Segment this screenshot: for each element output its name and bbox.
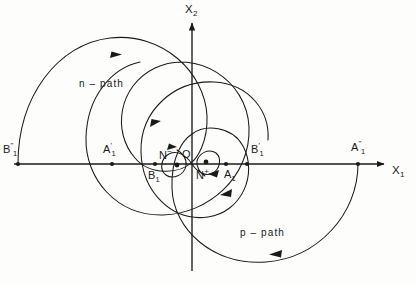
n-path-arrow-mid xyxy=(150,119,161,127)
point-a1-dot xyxy=(224,162,228,166)
x2-axis-label: X2 xyxy=(185,4,198,18)
label-b1-double-prime: B"1 xyxy=(3,142,17,157)
label-origin: O xyxy=(182,149,191,160)
p-path-arrow-inner xyxy=(208,170,219,178)
point-a1-prime-dot xyxy=(110,162,114,166)
figure-container: X1 X2 B"1 A'1 B1 N− O N+ A1 B'1 A"1 n – … xyxy=(0,0,416,283)
label-a1-double-prime: A"1 xyxy=(351,140,365,155)
label-n-plus: N+ xyxy=(196,168,209,181)
n-path-spiral-stroke xyxy=(18,37,249,215)
label-n-minus: N− xyxy=(159,148,172,161)
point-n-plus-dot xyxy=(204,160,209,165)
p-path-arrow-mid xyxy=(220,189,232,197)
label-a1: A1 xyxy=(224,169,236,183)
point-n-minus-dot xyxy=(175,163,180,168)
label-n-path: n – path xyxy=(79,79,124,89)
point-a1-double-prime-dot xyxy=(356,162,360,166)
n-path-arrow-outer xyxy=(110,52,122,59)
p-path-arrow-outer xyxy=(269,250,282,258)
point-b1-prime-dot xyxy=(245,162,249,166)
point-b1-dot xyxy=(153,162,157,166)
label-a1-prime: A'1 xyxy=(103,142,116,157)
point-b1-double-prime-dot xyxy=(16,162,20,166)
n-path-curve xyxy=(18,37,249,215)
label-b1: B1 xyxy=(148,170,160,184)
x1-axis-label: X1 xyxy=(392,165,405,179)
label-b1-prime: B'1 xyxy=(251,142,264,157)
label-p-path: p – path xyxy=(240,228,285,238)
